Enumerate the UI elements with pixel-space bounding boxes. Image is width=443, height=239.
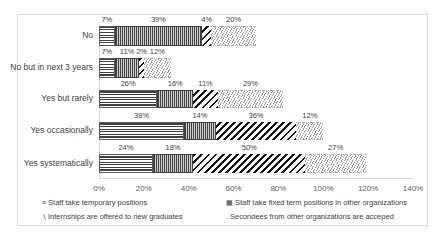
- category-label: Yes but rarely: [41, 93, 93, 103]
- category-label: Yes occasionally: [30, 125, 93, 135]
- temporary-positions-segment: [99, 122, 184, 140]
- data-label: 24%: [118, 143, 133, 152]
- data-label: 27%: [328, 143, 343, 152]
- data-label: 4%: [201, 15, 212, 24]
- data-label: 12%: [302, 111, 317, 120]
- data-label: 39%: [151, 15, 166, 24]
- legend-label: Secondees from other organizations are a…: [230, 212, 394, 221]
- legend-item-temporary-positions: ≡Staff take temporary positions: [42, 198, 147, 207]
- category-label: No: [82, 30, 93, 40]
- data-label: 50%: [242, 143, 257, 152]
- data-label: 18%: [165, 143, 180, 152]
- temporary-positions-segment: [99, 58, 115, 78]
- internships-segment: [216, 122, 297, 140]
- temporary-positions-segment: [99, 154, 153, 173]
- fixed-term-segment: [153, 154, 193, 173]
- data-label: 26%: [121, 79, 136, 88]
- internships-segment: [193, 90, 218, 108]
- x-axis-line: [99, 178, 413, 179]
- legend-label: Staff take fixed term positions in other…: [235, 198, 407, 207]
- data-label: 7%: [101, 47, 112, 56]
- secondees-segment: [296, 122, 323, 140]
- secondees-segment: [305, 154, 366, 173]
- data-label: 12%: [150, 47, 165, 56]
- data-label: 29%: [243, 79, 258, 88]
- light-diagonal-pattern-icon: .: [226, 213, 228, 220]
- fixed-term-segment: [115, 26, 202, 46]
- fixed-term-segment: [184, 122, 215, 140]
- x-tick-label: 140%: [403, 184, 423, 193]
- data-label: 16%: [168, 79, 183, 88]
- horizontal-lines-pattern-icon: ≡: [42, 199, 46, 206]
- diagonal-lines-pattern-icon: ∖: [42, 213, 46, 221]
- data-label: 36%: [248, 111, 263, 120]
- x-tick-label: 100%: [313, 184, 333, 193]
- fixed-term-segment: [157, 90, 193, 108]
- temporary-positions-segment: [99, 26, 115, 46]
- fixed-term-segment: [115, 58, 140, 78]
- category-label: Yes systematically: [24, 158, 93, 168]
- data-label: 2%: [136, 47, 147, 56]
- secondees-segment: [211, 26, 256, 46]
- legend-label: Staff take temporary positions: [48, 198, 147, 207]
- data-label: 11%: [120, 47, 134, 56]
- secondees-segment: [218, 90, 283, 108]
- vertical-lines-pattern-icon: ▦: [226, 199, 233, 207]
- data-label: 38%: [134, 111, 149, 120]
- data-label: 20%: [226, 15, 241, 24]
- x-tick-label: 80%: [270, 184, 286, 193]
- x-tick-label: 40%: [181, 184, 197, 193]
- data-label: 7%: [101, 15, 112, 24]
- x-tick-label: 0%: [93, 184, 105, 193]
- data-label: 11%: [198, 79, 212, 88]
- temporary-positions-segment: [99, 90, 157, 108]
- x-tick-label: 20%: [136, 184, 152, 193]
- x-tick-label: 60%: [226, 184, 242, 193]
- x-tick-label: 120%: [358, 184, 378, 193]
- internships-segment: [202, 26, 211, 46]
- internships-segment: [193, 154, 305, 173]
- category-label: No but in next 3 years: [10, 62, 93, 72]
- legend-item-fixed-term-positions: ▦Staff take fixed term positions in othe…: [226, 198, 407, 207]
- legend-item-secondees: .Secondees from other organizations are …: [226, 212, 394, 221]
- secondees-segment: [144, 58, 171, 78]
- data-label: 14%: [192, 111, 207, 120]
- legend-label: Internships are offered to new graduates: [48, 212, 183, 221]
- legend-item-internships: ∖Internships are offered to new graduate…: [42, 212, 183, 221]
